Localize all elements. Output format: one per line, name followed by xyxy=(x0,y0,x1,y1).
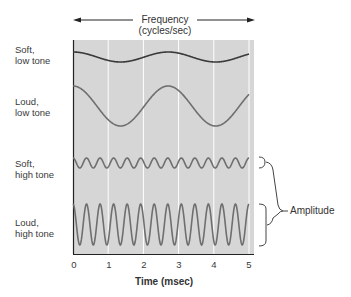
x-tick-0: 0 xyxy=(67,259,81,270)
row-label-soft-high: Soft, high tone xyxy=(15,158,54,180)
amplitude-bracket xyxy=(259,157,288,246)
x-axis-title: Time (msec) xyxy=(135,276,193,287)
amplitude-label: Amplitude xyxy=(290,205,334,216)
frequency-title-line1: Frequency xyxy=(141,14,188,25)
row-label-soft-low: Soft, low tone xyxy=(15,44,50,66)
frequency-title-line2: (cycles/sec) xyxy=(139,25,192,36)
frequency-title: Frequency (cycles/sec) xyxy=(133,14,197,36)
x-tick-2: 2 xyxy=(137,259,151,270)
waveform-diagram xyxy=(0,0,351,297)
row-label-loud-high: Loud, high tone xyxy=(15,217,54,239)
row-label-loud-low: Loud, low tone xyxy=(15,96,50,118)
x-tick-5: 5 xyxy=(242,259,256,270)
x-tick-1: 1 xyxy=(102,259,116,270)
x-tick-3: 3 xyxy=(172,259,186,270)
plot-panel xyxy=(73,40,254,254)
x-tick-4: 4 xyxy=(207,259,221,270)
